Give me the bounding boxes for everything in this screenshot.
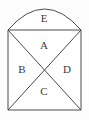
region-label-b: B: [18, 63, 25, 75]
region-label-d: D: [63, 63, 71, 75]
region-label-a: A: [40, 39, 48, 51]
figure-canvas: E A B C D: [0, 0, 89, 120]
geometric-figure: E A B C D: [0, 0, 89, 120]
region-label-e: E: [41, 12, 48, 24]
region-label-c: C: [40, 85, 47, 97]
